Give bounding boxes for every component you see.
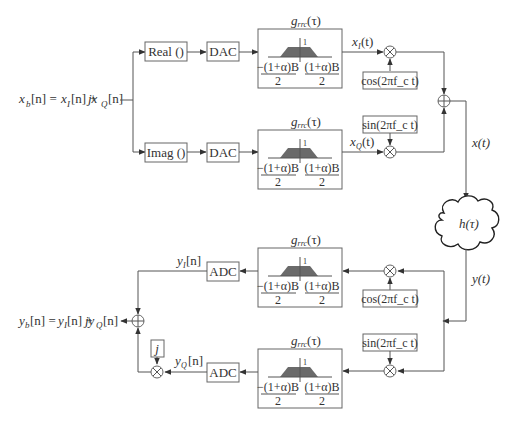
svg-text:(1+α)B: (1+α)B — [304, 60, 339, 74]
svg-text:1: 1 — [303, 358, 307, 367]
mixer-j — [151, 366, 163, 378]
svg-text:cos(2πf_c t): cos(2πf_c t) — [361, 74, 419, 88]
svg-text:(1+α)B: (1+α)B — [304, 161, 339, 175]
j-block: j — [151, 340, 164, 357]
line-yt-split — [443, 249, 466, 321]
yi-label: y I [n] — [175, 253, 201, 270]
svg-text:−(1+α)B: −(1+α)B — [257, 380, 299, 394]
line-yq-adder — [138, 328, 151, 372]
svg-text:[n] =: [n] = — [30, 313, 56, 328]
svg-text:x: x — [351, 34, 358, 49]
xt-label: x(t) — [471, 135, 490, 150]
svg-text:(1+α)B: (1+α)B — [304, 279, 339, 293]
svg-text:−(1+α)B: −(1+α)B — [257, 161, 299, 175]
svg-text:sin(2πf_c t): sin(2πf_c t) — [362, 118, 418, 132]
real-block: Real () — [145, 42, 187, 61]
svg-text:sin(2πf_c t): sin(2πf_c t) — [362, 336, 418, 350]
block-diagram: x b [n] = x I [n] + jx Q [n] Real () DAC… — [0, 0, 513, 428]
dac-block-bottom: DAC — [207, 143, 239, 162]
svg-text:Real (): Real () — [148, 44, 184, 59]
svg-text:[n]: [n] — [188, 353, 203, 368]
svg-text:grrc(τ): grrc(τ) — [291, 333, 321, 349]
svg-text:(t): (t) — [362, 134, 374, 149]
channel-cloud: h(τ) — [435, 196, 499, 250]
cos-block-tx: cos(2πf_c t) — [361, 72, 419, 89]
svg-text:Imag (): Imag () — [147, 145, 186, 160]
svg-text:DAC: DAC — [209, 44, 236, 59]
svg-text:[n] =: [n] = — [31, 91, 57, 106]
svg-text:x: x — [349, 134, 356, 149]
svg-text:grrc(τ): grrc(τ) — [291, 232, 321, 248]
svg-text:−(1+α)B: −(1+α)B — [257, 60, 299, 74]
svg-text:grrc(τ): grrc(τ) — [291, 114, 321, 130]
svg-text:y: y — [173, 353, 181, 368]
svg-text:y: y — [17, 313, 25, 328]
yt-label: y(t) — [470, 271, 490, 286]
svg-text:x: x — [18, 91, 25, 106]
rx-output-label: y b [n] = y I [n] + jy Q [n] — [17, 313, 118, 330]
svg-text:(1+α)B: (1+α)B — [304, 380, 339, 394]
cos-block-rx: cos(2πf_c t) — [361, 290, 419, 307]
svg-text:y: y — [175, 253, 183, 268]
imag-block: Imag () — [145, 143, 187, 162]
svg-text:y: y — [56, 313, 64, 328]
svg-text:x: x — [60, 91, 67, 106]
svg-text:1: 1 — [303, 139, 307, 148]
sin-block-rx: sin(2πf_c t) — [362, 334, 418, 351]
svg-text:Q: Q — [181, 361, 187, 370]
mixer-tx-q — [384, 146, 396, 158]
svg-text:jx: jx — [86, 91, 98, 106]
svg-text:Q: Q — [96, 320, 103, 330]
xq-label: x Q (t) — [349, 134, 374, 151]
svg-text:(t): (t) — [361, 34, 373, 49]
yq-label: y Q [n] — [173, 353, 203, 370]
svg-text:2: 2 — [275, 74, 281, 88]
adder-rx — [132, 315, 144, 327]
line-xt-to-channel — [450, 101, 466, 199]
rrc-filter-tx-q: grrc(τ) 1 −(1+α)B 2 (1+α)B 2 — [257, 114, 342, 189]
svg-text:2: 2 — [319, 394, 325, 408]
svg-text:Q: Q — [101, 99, 108, 109]
svg-text:1: 1 — [303, 38, 307, 47]
channel-label: h(τ) — [459, 216, 479, 231]
svg-text:2: 2 — [319, 74, 325, 88]
svg-text:2: 2 — [319, 175, 325, 189]
svg-text:2: 2 — [275, 293, 281, 307]
mixer-rx-q — [384, 365, 396, 377]
svg-text:2: 2 — [275, 394, 281, 408]
svg-text:−(1+α)B: −(1+α)B — [257, 279, 299, 293]
svg-text:1: 1 — [303, 257, 307, 266]
svg-text:cos(2πf_c t): cos(2πf_c t) — [361, 292, 419, 306]
svg-text:grrc(τ): grrc(τ) — [291, 13, 321, 29]
svg-text:2: 2 — [319, 293, 325, 307]
svg-text:[n]: [n] — [186, 253, 201, 268]
line-yi-adder — [138, 271, 207, 314]
sin-block-tx: sin(2πf_c t) — [362, 116, 418, 133]
mixer-tx-i — [384, 46, 396, 58]
rrc-filter-rx-q: grrc(τ) 1 −(1+α)B 2 (1+α)B 2 — [257, 333, 342, 408]
xi-label: x I (t) — [351, 34, 373, 51]
svg-text:ADC: ADC — [209, 365, 236, 380]
mixer-rx-i — [384, 265, 396, 277]
svg-text:jy: jy — [83, 313, 95, 328]
rrc-filter-tx-i: grrc(τ) 1 −(1+α)B 2 (1+α)B 2 — [257, 13, 342, 88]
svg-text:[n]: [n] — [108, 91, 123, 106]
adder-tx — [438, 95, 450, 107]
rrc-filter-rx-i: grrc(τ) 1 −(1+α)B 2 (1+α)B 2 — [257, 232, 342, 307]
svg-text:DAC: DAC — [209, 145, 236, 160]
svg-text:2: 2 — [275, 175, 281, 189]
svg-text:[n]: [n] — [103, 313, 118, 328]
adc-block-q: ADC — [207, 363, 239, 382]
tx-input-label: x b [n] = x I [n] + jx Q [n] — [18, 91, 123, 109]
svg-text:ADC: ADC — [209, 264, 236, 279]
dac-block-top: DAC — [207, 42, 239, 61]
adc-block-i: ADC — [207, 262, 239, 281]
